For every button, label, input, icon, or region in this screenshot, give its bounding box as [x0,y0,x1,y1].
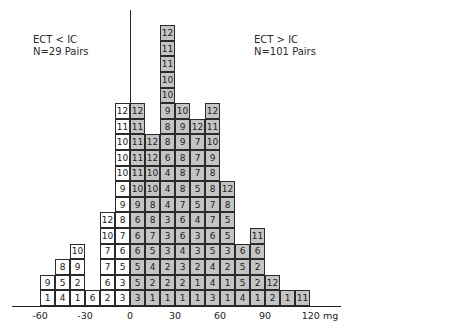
histogram-cell: 2 [220,259,235,275]
histogram-cell: 3 [130,290,145,306]
histogram-cell: 9 [205,150,220,166]
histogram-cell: 8 [160,119,175,135]
histogram-cell: 1 [70,290,85,306]
histogram-cell: 12 [115,103,130,119]
histogram-cell: 4 [235,290,250,306]
histogram-cell: 5 [220,212,235,228]
histogram-cell: 11 [130,166,145,182]
histogram-cell: 2 [190,259,205,275]
histogram-cell: 1 [40,290,55,306]
histogram-cell: 5 [205,244,220,260]
histogram-cell: 4 [205,259,220,275]
x-tick-label: 60 [214,310,226,321]
histogram-cell: 9 [175,134,190,150]
histogram-cell: 10 [160,88,175,104]
histogram-cell: 2 [160,275,175,291]
histogram-cell: 12 [160,25,175,41]
histogram-cell: 8 [205,181,220,197]
histogram-cell: 10 [145,181,160,197]
histogram-cell: 8 [145,197,160,213]
histogram-cell: 3 [160,244,175,260]
histogram-cell: 6 [160,150,175,166]
histogram-cell: 6 [85,290,100,306]
histogram-cell: 8 [175,181,190,197]
histogram-cell: 1 [160,290,175,306]
histogram-cell: 4 [145,259,160,275]
histogram-cell: 8 [175,150,190,166]
histogram-cell: 8 [55,259,70,275]
histogram-cell: 2 [250,275,265,291]
histogram-cell: 4 [55,290,70,306]
histogram-cell: 12 [205,103,220,119]
histogram-cell: 11 [130,150,145,166]
histogram-cell: 1 [280,290,295,306]
histogram-cell: 4 [160,166,175,182]
histogram-cell: 2 [70,275,85,291]
histogram-cell: 11 [160,56,175,72]
histogram-cell: 2 [100,290,115,306]
histogram-cell: 5 [55,275,70,291]
histogram-cell: 6 [175,228,190,244]
x-tick-label: -30 [77,310,93,321]
histogram-cell: 5 [220,228,235,244]
histogram-cell: 5 [115,259,130,275]
histogram-cell: 11 [250,228,265,244]
histogram-cell: 1 [220,290,235,306]
histogram-cell: 9 [70,259,85,275]
histogram-cell: 6 [130,244,145,260]
histogram-cell: 10 [160,72,175,88]
histogram-cell: 7 [205,197,220,213]
histogram-cell: 8 [145,212,160,228]
histogram-cell: 11 [205,119,220,135]
histogram-cell: 10 [130,181,145,197]
histogram-cell: 2 [160,259,175,275]
histogram-cell: 11 [295,290,310,306]
histogram-cell: 10 [115,150,130,166]
histogram-cell: 9 [175,119,190,135]
histogram-cell: 5 [130,259,145,275]
histogram-cell: 7 [100,259,115,275]
histogram-cell: 6 [100,275,115,291]
x-tick-label: -60 [32,310,48,321]
histogram-cell: 5 [190,181,205,197]
histogram-cell: 1 [250,290,265,306]
histogram-cell: 5 [190,197,205,213]
histogram-cell: 10 [70,244,85,260]
histogram-cell: 6 [115,244,130,260]
histogram-cell: 1 [190,275,205,291]
histogram-cell: 1 [190,290,205,306]
histogram-cell: 8 [160,134,175,150]
histogram-cell: 3 [175,259,190,275]
x-axis-line [12,306,341,307]
histogram-cell: 1 [175,290,190,306]
histogram-cell: 7 [190,166,205,182]
x-tick-label: 90 [259,310,271,321]
histogram-cell: 7 [190,150,205,166]
histogram-cell: 2 [145,275,160,291]
histogram-cell: 7 [115,228,130,244]
histogram-cell: 3 [190,244,205,260]
histogram-cell: 2 [265,290,280,306]
histogram-cell: 9 [40,275,55,291]
histogram-cell: 8 [175,166,190,182]
histogram-cell: 8 [205,166,220,182]
histogram-cell: 11 [130,119,145,135]
histogram-cell: 4 [160,181,175,197]
histogram-cell: 3 [160,228,175,244]
histogram-plot: 9185410921612107762121110101099876533121… [0,0,452,334]
histogram-cell: 12 [265,275,280,291]
histogram-cell: 3 [190,228,205,244]
histogram-cell: 1 [145,290,160,306]
histogram-cell: 5 [235,259,250,275]
histogram-cell: 11 [115,119,130,135]
histogram-cell: 3 [205,290,220,306]
histogram-cell: 7 [145,228,160,244]
histogram-cell: 6 [235,244,250,260]
histogram-cell: 4 [175,244,190,260]
histogram-cell: 12 [145,134,160,150]
histogram-cell: 3 [115,290,130,306]
histogram-cell: 10 [100,228,115,244]
histogram-cell: 6 [130,228,145,244]
histogram-cell: 4 [160,197,175,213]
histogram-cell: 6 [130,212,145,228]
